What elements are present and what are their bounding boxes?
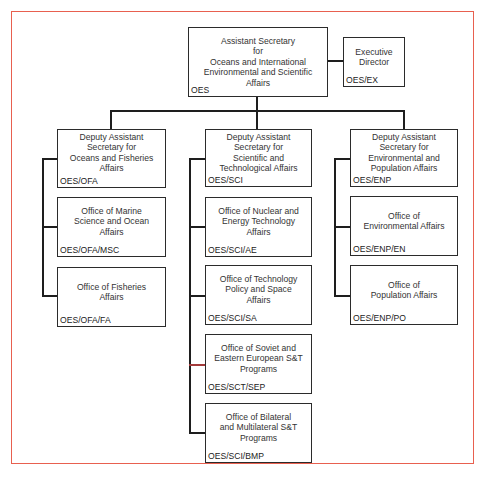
title-line: Deputy Assistant — [353, 132, 455, 142]
title-line: Policy and Space — [208, 284, 309, 294]
org-box-office-bmp: Office of Bilateral and Multilateral S&T… — [205, 403, 312, 463]
office-code: OES/OFA — [60, 176, 98, 186]
org-box-das-sci: Deputy Assistant Secretary for Scientifi… — [205, 129, 312, 187]
title-line: Energy Technology — [208, 216, 309, 226]
org-box-office-ae: Office of Nuclear and Energy Technology … — [205, 197, 312, 257]
org-box-office-en: Office of Environmental Affairs OES/ENP/… — [350, 196, 458, 256]
org-box-das-enp: Deputy Assistant Secretary for Environme… — [350, 129, 458, 187]
title-line: Executive — [346, 47, 402, 57]
title-line: Environmental and — [353, 153, 455, 163]
title-line: for — [191, 46, 325, 56]
org-box-das-ofa: Deputy Assistant Secretary for Oceans an… — [57, 129, 166, 188]
box-title: Office of Population Affairs — [353, 280, 455, 301]
col3-branch-po — [334, 295, 350, 297]
title-line: Office of Technology — [208, 274, 309, 284]
org-box-executive-director: Executive Director OES/EX — [343, 37, 405, 87]
org-box-office-po: Office of Population Affairs OES/ENP/PO — [350, 265, 458, 325]
col2-branch-ae — [189, 226, 205, 228]
title-line: Office of Nuclear and — [208, 206, 309, 216]
title-line: Oceans and Fisheries — [60, 153, 163, 163]
col2-branch-head — [189, 158, 205, 160]
box-title: Office of Fisheries Affairs — [60, 282, 163, 303]
title-line: Secretary for — [208, 142, 309, 152]
office-code: OES/SCI/BMP — [208, 451, 264, 461]
office-code: OES — [191, 85, 209, 95]
title-line: Population Affairs — [353, 290, 455, 300]
office-code: OES/ENP — [353, 175, 391, 185]
col1-branch-head — [42, 158, 57, 160]
box-title: Office of Technology Policy and Space Af… — [208, 274, 309, 305]
title-line: Office of Marine — [60, 206, 163, 216]
office-code: OES/SCI/AE — [208, 245, 257, 255]
title-line: Assistant Secretary — [191, 36, 325, 46]
title-line: Affairs — [60, 292, 163, 302]
title-line: Science and Ocean — [60, 216, 163, 226]
box-title: Office of Bilateral and Multilateral S&T… — [208, 412, 309, 443]
connector-to-col2 — [256, 110, 258, 129]
office-code: OES/OFA/MSC — [60, 245, 119, 255]
title-line: Population Affairs — [353, 163, 455, 173]
office-code: OES/ENP/EN — [353, 244, 406, 254]
col3-branch-head — [334, 158, 350, 160]
box-title: Deputy Assistant Secretary for Oceans an… — [60, 132, 163, 174]
title-line: Office of — [353, 211, 455, 221]
box-title: Office of Soviet and Eastern European S&… — [208, 343, 309, 374]
office-code: OES/SCI — [208, 175, 243, 185]
title-line: Technological Affairs — [208, 163, 309, 173]
title-line: Secretary for — [60, 142, 163, 152]
title-line: and Multilateral S&T — [208, 422, 309, 432]
box-title: Office of Marine Science and Ocean Affai… — [60, 206, 163, 237]
title-line: Environmental Affairs — [353, 221, 455, 231]
title-line: Affairs — [191, 78, 325, 88]
org-box-assistant-secretary: Assistant Secretary for Oceans and Inter… — [188, 27, 328, 97]
col2-branch-sep — [189, 364, 205, 366]
title-line: Office of Bilateral — [208, 412, 309, 422]
title-line: Scientific and — [208, 153, 309, 163]
box-title: Assistant Secretary for Oceans and Inter… — [191, 36, 325, 88]
box-title: Office of Nuclear and Energy Technology … — [208, 206, 309, 237]
connector-to-col3 — [403, 110, 405, 129]
office-code: OES/EX — [346, 75, 378, 85]
box-title: Deputy Assistant Secretary for Environme… — [353, 132, 455, 174]
title-line: Affairs — [208, 295, 309, 305]
connector-top-to-exec — [327, 60, 343, 62]
title-line: Affairs — [60, 163, 163, 173]
title-line: Oceans and International — [191, 57, 325, 67]
title-line: Office of Soviet and — [208, 343, 309, 353]
title-line: Affairs — [60, 227, 163, 237]
col2-branch-bmp — [189, 432, 205, 434]
title-line: Deputy Assistant — [60, 132, 163, 142]
title-line: Secretary for — [353, 142, 455, 152]
office-code: OES/SCT/SEP — [208, 382, 265, 392]
org-box-office-sa: Office of Technology Policy and Space Af… — [205, 265, 312, 325]
col1-branch-fa — [42, 295, 57, 297]
office-code: OES/OFA/FA — [60, 315, 111, 325]
org-box-office-msc: Office of Marine Science and Ocean Affai… — [57, 197, 166, 257]
office-code: OES/ENP/PO — [353, 313, 406, 323]
title-line: Environmental and Scientific — [191, 67, 325, 77]
col1-branch-msc — [42, 226, 57, 228]
title-line: Office of — [353, 280, 455, 290]
connector-to-col1 — [110, 110, 112, 129]
title-line: Deputy Assistant — [208, 132, 309, 142]
title-line: Affairs — [208, 227, 309, 237]
office-code: OES/SCI/SA — [208, 313, 257, 323]
box-title: Executive Director — [346, 47, 402, 68]
title-line: Office of Fisheries — [60, 282, 163, 292]
title-line: Eastern European S&T — [208, 353, 309, 363]
title-line: Director — [346, 57, 402, 67]
col2-branch-sa — [189, 295, 205, 297]
col3-branch-en — [334, 226, 350, 228]
title-line: Programs — [208, 364, 309, 374]
org-box-office-sep: Office of Soviet and Eastern European S&… — [205, 334, 312, 394]
box-title: Office of Environmental Affairs — [353, 211, 455, 232]
title-line: Programs — [208, 433, 309, 443]
org-box-office-fa: Office of Fisheries Affairs OES/OFA/FA — [57, 267, 166, 327]
box-title: Deputy Assistant Secretary for Scientifi… — [208, 132, 309, 174]
